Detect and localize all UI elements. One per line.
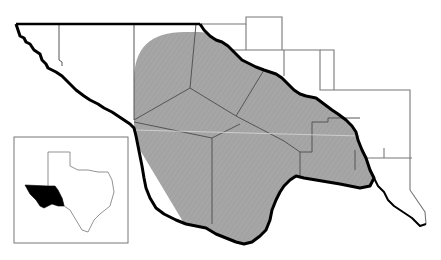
regional-map bbox=[0, 0, 441, 260]
texas-locator-inset bbox=[14, 137, 128, 243]
